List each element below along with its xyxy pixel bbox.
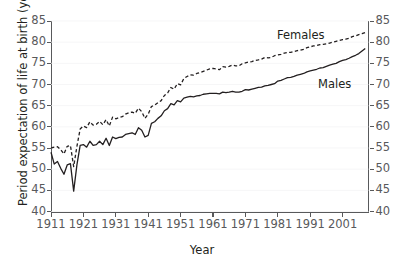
series-line-females (51, 32, 365, 166)
plot-curves (0, 0, 404, 267)
series-label-females: Females (277, 28, 325, 42)
y-axis-title: Period expectation of life at birth (yea… (16, 0, 30, 206)
life-expectancy-chart: 40455055606570758085 4045505560657075808… (0, 0, 404, 267)
gridlines (51, 21, 369, 212)
series-label-males: Males (318, 77, 351, 91)
x-axis-title: Year (0, 243, 404, 257)
